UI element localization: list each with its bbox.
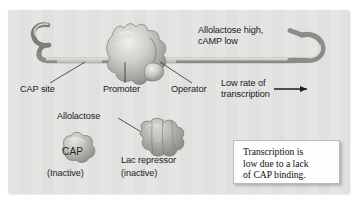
promoter-label: Promoter (103, 84, 140, 95)
allolactose-label: Allolactose (57, 111, 100, 122)
cap-protein-label: CAP (62, 146, 83, 157)
condition-label: Allolactose high,cAMP low (198, 25, 263, 46)
operator-label: Operator (171, 84, 206, 95)
lac-repressor-label: Lac repressor (121, 155, 176, 166)
callout-text: Transcription islow due to a lackof CAP … (243, 146, 309, 181)
transcription-rate-label: Low rate oftranscription (221, 78, 270, 99)
callout-box: Transcription islow due to a lackof CAP … (233, 140, 340, 184)
cap-site-label: CAP site (20, 84, 55, 95)
figure-root: Allolactose high,cAMP low CAP site Promo… (0, 0, 357, 203)
cap-state-label: (Inactive) (47, 168, 84, 179)
lac-repressor-state-label: (inactive) (121, 168, 157, 179)
